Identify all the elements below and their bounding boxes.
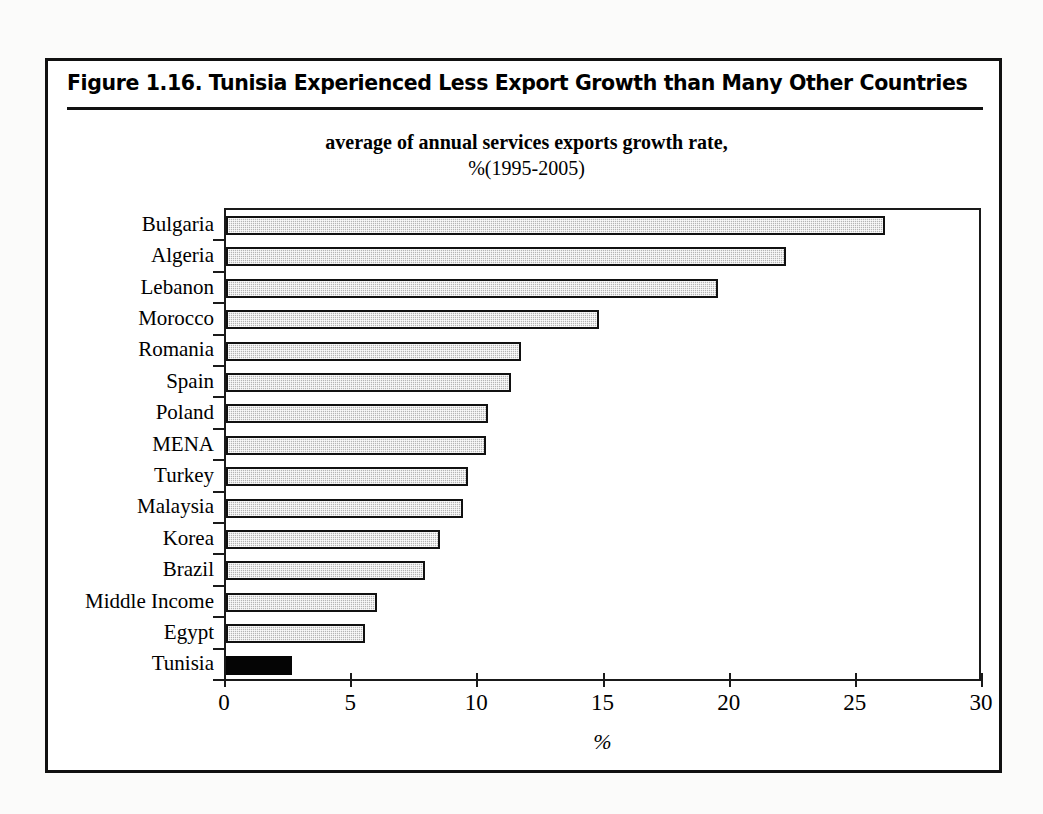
- y-axis-label-mena: MENA: [0, 432, 214, 456]
- y-axis-label-algeria: Algeria: [0, 243, 214, 267]
- bar-row: [226, 210, 983, 241]
- bar-romania: [226, 342, 521, 361]
- x-axis-label-25: 25: [825, 689, 885, 717]
- bar-tunisia: [226, 656, 292, 675]
- x-axis-label-5: 5: [320, 689, 380, 717]
- y-tick: [213, 616, 224, 618]
- y-axis-label-middle-income: Middle Income: [0, 589, 214, 613]
- bar-lebanon: [226, 279, 718, 298]
- x-tick: [603, 673, 605, 687]
- bar-row: [226, 430, 983, 461]
- title-divider: [67, 107, 983, 110]
- y-tick: [213, 585, 224, 587]
- bar-row: [226, 336, 983, 367]
- y-axis-label-brazil: Brazil: [0, 557, 214, 581]
- x-tick: [350, 673, 352, 687]
- x-axis-label-0: 0: [194, 689, 254, 717]
- x-tick: [729, 673, 731, 687]
- bar-bulgaria: [226, 216, 885, 235]
- y-tick: [213, 365, 224, 367]
- bar-poland: [226, 404, 488, 423]
- bar-row: [226, 524, 983, 555]
- y-tick: [213, 648, 224, 650]
- y-axis-label-korea: Korea: [0, 526, 214, 550]
- chart-subtitle-line: %(1995-2005): [48, 155, 1005, 181]
- y-axis-label-egypt: Egypt: [0, 620, 214, 644]
- bar-row: [226, 367, 983, 398]
- chart-subtitle: average of annual services exports growt…: [48, 129, 1005, 181]
- figure-title: Figure 1.16. Tunisia Experienced Less Ex…: [67, 70, 983, 96]
- x-tick: [224, 673, 226, 687]
- figure-frame: Figure 1.16. Tunisia Experienced Less Ex…: [45, 58, 1002, 773]
- x-axis-label-20: 20: [699, 689, 759, 717]
- y-axis-label-morocco: Morocco: [0, 306, 214, 330]
- y-axis-label-bulgaria: Bulgaria: [0, 212, 214, 236]
- bar-row: [226, 398, 983, 429]
- bar-row: [226, 241, 983, 272]
- bar-algeria: [226, 247, 786, 266]
- chart-title-line: average of annual services exports growt…: [48, 129, 1005, 155]
- y-axis-label-malaysia: Malaysia: [0, 494, 214, 518]
- y-tick: [213, 239, 224, 241]
- y-tick: [213, 271, 224, 273]
- x-tick: [981, 673, 983, 687]
- y-tick: [213, 553, 224, 555]
- bar-morocco: [226, 310, 599, 329]
- bar-row: [226, 555, 983, 586]
- bar-row: [226, 304, 983, 335]
- y-tick: [213, 459, 224, 461]
- bar-malaysia: [226, 499, 463, 518]
- y-axis-label-romania: Romania: [0, 337, 214, 361]
- y-tick: [213, 522, 224, 524]
- y-axis-labels: BulgariaAlgeriaLebanonMoroccoRomaniaSpai…: [0, 208, 214, 679]
- y-axis-label-tunisia: Tunisia: [0, 651, 214, 675]
- y-tick: [213, 428, 224, 430]
- bar-row: [226, 493, 983, 524]
- y-tick: [213, 302, 224, 304]
- y-axis-label-lebanon: Lebanon: [0, 275, 214, 299]
- plot-area: [224, 208, 981, 679]
- bar-mena: [226, 436, 486, 455]
- x-axis-title: %: [224, 729, 981, 755]
- y-tick: [213, 396, 224, 398]
- x-axis-label-15: 15: [573, 689, 633, 717]
- y-tick: [213, 679, 224, 681]
- bar-row: [226, 587, 983, 618]
- bar-middle-income: [226, 593, 377, 612]
- bar-row: [226, 461, 983, 492]
- y-tick: [213, 334, 224, 336]
- bar-brazil: [226, 561, 425, 580]
- bar-turkey: [226, 467, 468, 486]
- bar-egypt: [226, 624, 365, 643]
- y-axis-label-poland: Poland: [0, 400, 214, 424]
- y-axis-label-spain: Spain: [0, 369, 214, 393]
- x-axis-label-10: 10: [446, 689, 506, 717]
- x-tick: [476, 673, 478, 687]
- x-axis-label-30: 30: [951, 689, 1011, 717]
- bar-row: [226, 273, 983, 304]
- scanned-page: Figure 1.16. Tunisia Experienced Less Ex…: [0, 0, 1043, 814]
- y-axis-label-turkey: Turkey: [0, 463, 214, 487]
- bar-spain: [226, 373, 511, 392]
- y-tick: [213, 491, 224, 493]
- bar-row: [226, 618, 983, 649]
- x-tick: [855, 673, 857, 687]
- bar-row: [226, 650, 983, 681]
- bar-korea: [226, 530, 440, 549]
